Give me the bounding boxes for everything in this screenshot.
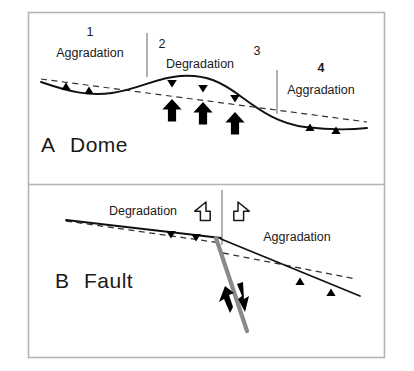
extension-left-arrow-icon (195, 202, 210, 221)
panel-b-aggradation-label: Aggradation (263, 230, 330, 244)
panel-b-degradation-label: Degradation (109, 204, 177, 218)
degradation-triangle-icon (198, 85, 208, 93)
panel-a-zone23-degradation-markers (167, 80, 240, 103)
panel-b-fault: Degradation Aggradation B Fault (55, 190, 360, 331)
panel-a-title: Dome (70, 133, 128, 156)
zone-2-label: Degradation (166, 57, 234, 71)
panel-b-letter: B (55, 269, 70, 292)
degradation-triangle-icon (191, 234, 201, 242)
degradation-triangle-icon (230, 95, 240, 103)
aggradation-triangle-icon (326, 289, 335, 296)
zone-2-number: 2 (159, 37, 166, 51)
aggradation-triangle-icon (84, 87, 93, 94)
extension-right-arrow-icon (234, 202, 249, 221)
panel-b-degradation-markers (166, 231, 201, 242)
zone-1-label: Aggradation (56, 46, 123, 60)
figure-root: 1 2 3 4 Aggradation Degradation Aggradat… (0, 0, 414, 371)
aggradation-triangle-icon (295, 278, 304, 285)
degradation-triangle-icon (166, 231, 176, 239)
panel-b-title: Fault (84, 269, 133, 292)
zone-4-label: Aggradation (287, 83, 354, 97)
zone-3-number: 3 (254, 44, 261, 58)
panel-b-right-datum-dashed (223, 253, 356, 279)
zone-4-number: 4 (318, 61, 325, 75)
panel-b-left-datum-dashed (66, 221, 221, 243)
degradation-triangle-icon (167, 80, 177, 88)
uplift-arrow-icon (193, 102, 212, 125)
geologic-cross-section-figure: 1 2 3 4 Aggradation Degradation Aggradat… (0, 0, 414, 371)
panel-a-letter: A (41, 133, 56, 156)
panel-a-dome: 1 2 3 4 Aggradation Degradation Aggradat… (41, 25, 367, 156)
zone-1-number: 1 (87, 25, 94, 39)
aggradation-triangle-icon (61, 83, 70, 90)
uplift-arrow-icon (225, 112, 244, 135)
panel-b-aggradation-markers (295, 278, 335, 296)
uplift-arrow-icon (162, 99, 181, 122)
